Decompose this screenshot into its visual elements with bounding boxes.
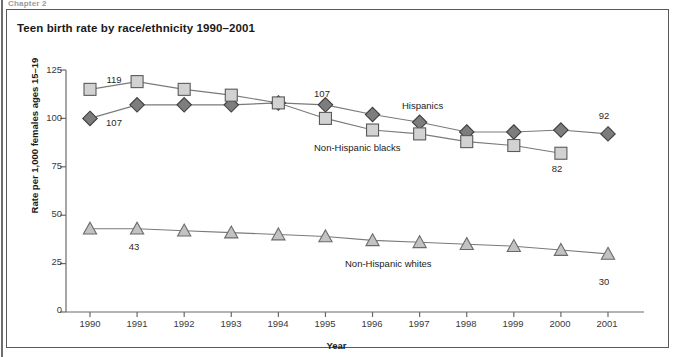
data-point: [601, 127, 615, 141]
y-tick-label-0: 0: [28, 304, 62, 315]
data-point: [272, 97, 284, 109]
series-non-hispanic-whites: [83, 222, 614, 259]
y-tick-label-75: 75: [28, 160, 62, 171]
data-point: [130, 222, 143, 234]
x-tick-label-2000: 2000: [537, 318, 583, 329]
data-point: [177, 98, 191, 112]
chart-svg-canvas: [0, 0, 673, 357]
point-label-hispanics-2001: 92: [584, 110, 624, 121]
point-label-nhwhites-1991: 43: [114, 241, 154, 252]
data-point: [414, 128, 426, 140]
chart-axes: [60, 70, 644, 317]
data-point: [367, 124, 379, 136]
x-tick-label-1991: 1991: [114, 318, 160, 329]
data-point: [365, 107, 379, 121]
data-point: [319, 112, 331, 124]
x-tick-label-1992: 1992: [161, 318, 207, 329]
x-tick-label-1998: 1998: [443, 318, 489, 329]
x-tick-label-1993: 1993: [208, 318, 254, 329]
series-label-nh-whites: Non-Hispanic whites: [345, 258, 432, 269]
data-point: [461, 136, 473, 148]
x-tick-label-2001: 2001: [584, 318, 630, 329]
data-point: [318, 98, 332, 112]
figure-page: Chapter 2 Teen birth rate by race/ethnic…: [0, 0, 673, 357]
series-label-hispanics: Hispanics: [402, 100, 443, 111]
data-point: [130, 98, 144, 112]
y-tick-label-125: 125: [28, 64, 62, 75]
series-hispanics: [83, 96, 615, 141]
data-point: [508, 140, 520, 152]
data-point: [554, 123, 568, 137]
y-tick-label-25: 25: [28, 256, 62, 267]
x-tick-label-1995: 1995: [302, 318, 348, 329]
data-point: [225, 89, 237, 101]
x-tick-label-1994: 1994: [255, 318, 301, 329]
x-tick-label-1996: 1996: [349, 318, 395, 329]
data-point: [84, 83, 96, 95]
y-tick-label-50: 50: [28, 208, 62, 219]
point-label-nhblacks-2000: 82: [537, 163, 577, 174]
x-tick-label-1990: 1990: [67, 318, 113, 329]
data-point: [83, 222, 96, 234]
data-point: [178, 83, 190, 95]
data-point: [555, 147, 567, 159]
data-point: [507, 125, 521, 139]
x-tick-label-1997: 1997: [396, 318, 442, 329]
x-axis-title: Year: [0, 340, 673, 351]
point-label-hispanics-1991: 107: [94, 117, 134, 128]
point-label-nhblacks-1991: 119: [94, 74, 134, 85]
x-tick-label-1999: 1999: [490, 318, 536, 329]
series-label-nh-blacks: Non-Hispanic blacks: [314, 142, 401, 153]
data-point: [412, 115, 426, 129]
point-label-nhwhites-2001: 30: [584, 276, 624, 287]
chart-plot-area: Rate per 1,000 females ages 15–19 Year 1…: [0, 0, 673, 357]
y-tick-label-100: 100: [28, 112, 62, 123]
point-label-hispanics-1995: 107: [302, 88, 342, 99]
